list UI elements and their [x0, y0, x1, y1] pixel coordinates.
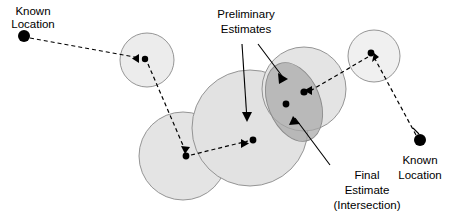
final-estimate-line1: Final — [355, 169, 380, 181]
estimate-dot-6 — [368, 50, 375, 57]
estimate-dot-5 — [283, 101, 290, 108]
known-location-right-line1: Known — [402, 154, 437, 166]
known-location-left-line1: Known — [15, 5, 50, 17]
estimate-dot-4 — [300, 88, 307, 95]
known-location-left-dot — [18, 30, 30, 42]
estimate-dot-3 — [250, 137, 257, 144]
preliminary-estimates-line1: Preliminary — [217, 8, 275, 20]
label-final-estimate: Final Estimate (Intersection) — [333, 169, 400, 211]
known-location-left-line2: Location — [11, 18, 54, 30]
final-estimate-line3: (Intersection) — [333, 199, 400, 211]
localization-diagram: Known Location Preliminary Estimates Fin… — [0, 0, 451, 220]
known-location-right-line2: Location — [398, 169, 441, 181]
estimate-dot-1 — [142, 56, 148, 62]
label-known-location-right: Known Location — [398, 154, 441, 181]
final-estimate-line2: Estimate — [345, 184, 390, 196]
known-location-right-dot — [414, 134, 426, 146]
diagram-root: Known Location Preliminary Estimates Fin… — [0, 0, 451, 220]
label-preliminary-estimates: Preliminary Estimates — [217, 8, 275, 35]
preliminary-estimates-line2: Estimates — [221, 23, 272, 35]
estimate-dot-2 — [183, 153, 190, 160]
leader-right-known-to-dot — [413, 128, 419, 134]
label-known-location-left: Known Location — [11, 5, 54, 30]
